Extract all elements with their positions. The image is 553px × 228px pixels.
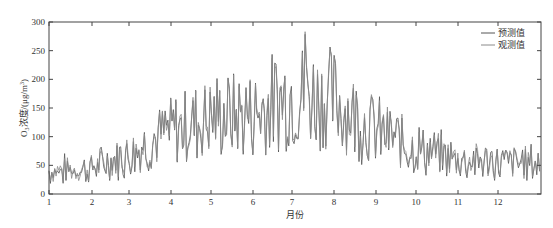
x-axis-ticks: 123456789101112 — [47, 22, 503, 207]
plot-lines — [49, 32, 540, 184]
x-tick-label: 8 — [332, 197, 337, 207]
x-tick-label: 9 — [374, 197, 379, 207]
y-tick-label: 50 — [36, 160, 46, 170]
y-tick-label: 250 — [32, 46, 46, 56]
x-tick-label: 10 — [412, 197, 422, 207]
x-tick-label: 12 — [494, 197, 503, 207]
x-tick-label: 3 — [127, 197, 132, 207]
y-axis-label: O3浓度/(μg/m3) — [18, 79, 30, 137]
x-tick-label: 5 — [209, 197, 214, 207]
y-tick-label: 300 — [32, 17, 46, 27]
legend: 预测值 观测值 — [481, 27, 525, 50]
y-tick-label: 200 — [32, 74, 46, 84]
observed-series-line — [49, 32, 540, 182]
x-axis-label: 月份 — [286, 209, 304, 220]
x-tick-label: 4 — [169, 197, 174, 207]
y-tick-label: 100 — [32, 132, 46, 142]
o3-concentration-chart: 123456789101112 050100150200250300 月份 O3… — [0, 0, 553, 228]
plot-frame — [49, 22, 541, 194]
x-tick-label: 11 — [454, 197, 463, 207]
predicted-series-line — [49, 34, 540, 183]
legend-label-observed: 观测值 — [498, 39, 525, 50]
x-tick-label: 2 — [90, 197, 95, 207]
x-tick-label: 7 — [290, 197, 295, 207]
y-tick-label: 0 — [41, 189, 46, 199]
legend-label-predicted: 预测值 — [498, 27, 525, 38]
x-tick-label: 1 — [47, 197, 52, 207]
y-axis-ticks: 050100150200250300 — [32, 17, 542, 199]
x-tick-label: 6 — [251, 197, 256, 207]
y-tick-label: 150 — [32, 103, 46, 113]
